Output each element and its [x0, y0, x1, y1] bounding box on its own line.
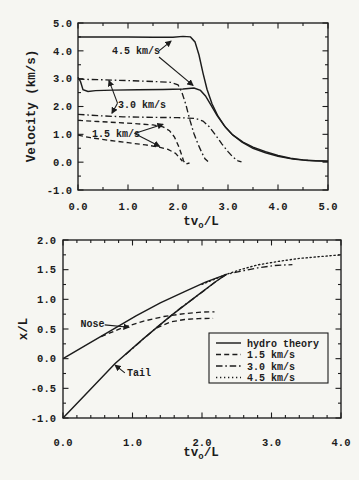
y-tick-label: 5.0: [53, 18, 72, 30]
x-tick-label: 3.0: [219, 201, 238, 213]
axes-frame: [63, 240, 341, 418]
x-tick-label: 1.0: [119, 201, 138, 213]
x-tick-label: 0.0: [69, 201, 88, 213]
two-panel-figure-svg: 4.5 km/s3.0 km/s1.5 km/s0.01.02.03.04.05…: [0, 0, 359, 480]
y-tick-label: 1.0: [53, 129, 72, 141]
ticks: 0.01.02.03.04.05.0-1.00.01.02.03.04.05.0: [47, 18, 338, 213]
series-4.5-km-s: [202, 255, 341, 285]
annotation-arrow: [112, 103, 118, 113]
x-tick-label: 5.0: [319, 201, 338, 213]
legend-entry-label: 4.5 km/s: [247, 373, 295, 384]
x-tick-label: 4.0: [269, 201, 288, 213]
curve-label: 4.5 km/s: [112, 46, 160, 57]
series-4.5-km-s-nose-velocity: [78, 77, 328, 161]
annotation-arrow: [109, 81, 118, 104]
y-tick-label: 1.5: [37, 264, 56, 276]
curve-label: 3.0 km/s: [118, 100, 166, 111]
x-tick-label: 1.0: [123, 437, 142, 449]
y-tick-label: 0.0: [53, 157, 72, 169]
legend-entry-label: 3.0 km/s: [247, 362, 295, 373]
series-1.5-km-s-shock-velocity: [78, 120, 190, 164]
plot-border: [63, 240, 341, 418]
annotation-arrow: [159, 57, 193, 85]
curve-label: 1.5 km/s: [92, 129, 140, 140]
y-tick-label: 0.5: [37, 324, 56, 336]
y-axis-title: Velocity (km/s): [25, 50, 39, 163]
y-tick-label: 2.0: [37, 235, 56, 247]
legend-entry-label: 1.5 km/s: [247, 350, 295, 361]
y-tick-label: 1.0: [37, 294, 56, 306]
y-tick-label: -1.0: [31, 413, 56, 425]
annotation-arrow: [159, 41, 171, 51]
series-hydro-theory-tail: [63, 274, 226, 418]
y-tick-label: 3.0: [53, 73, 72, 85]
series-1.5-km-s-nose: [101, 312, 214, 337]
y-tick-label: -1.0: [47, 185, 72, 197]
curve-label: Nose: [80, 319, 104, 330]
x-axis-title: tvo/L: [183, 215, 218, 231]
y-axis-title: x/L: [17, 318, 31, 341]
legend: hydro theory1.5 km/s3.0 km/s4.5 km/s: [209, 333, 328, 384]
x-tick-label: 2.0: [169, 201, 188, 213]
x-tick-label: 4.0: [332, 437, 351, 449]
x-tick-label: 0.0: [54, 437, 73, 449]
annotations: 4.5 km/s3.0 km/s1.5 km/s: [92, 41, 193, 146]
position-plot: NoseTail0.01.02.03.04.0-1.0-0.50.00.51.0…: [17, 235, 350, 462]
y-tick-label: 0.0: [37, 353, 56, 365]
y-tick-label: -0.5: [31, 383, 56, 395]
y-tick-label: 2.0: [53, 101, 72, 113]
velocity-plot: 4.5 km/s3.0 km/s1.5 km/s0.01.02.03.04.05…: [25, 18, 337, 231]
annotation-arrow: [115, 365, 125, 373]
x-tick-label: 3.0: [262, 437, 281, 449]
y-tick-label: 4.0: [53, 46, 72, 58]
curve-label: Tail: [127, 368, 151, 379]
series-3.0-km-s-shock-velocity: [78, 79, 208, 161]
legend-entry-label: hydro theory: [247, 339, 319, 350]
series-hydro-theory-nose: [63, 274, 226, 358]
scanned-figure-page: 4.5 km/s3.0 km/s1.5 km/s0.01.02.03.04.05…: [0, 0, 359, 480]
